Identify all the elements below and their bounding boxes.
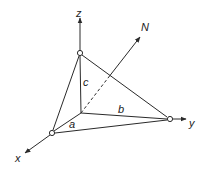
x-axis-label: x: [14, 152, 21, 164]
normal-vector: [108, 37, 140, 78]
x-axis: [25, 135, 50, 153]
z-axis-label: z: [75, 7, 82, 19]
y-axis-label: y: [188, 117, 196, 129]
tetrahedron-diagram: z N y x c b a: [0, 0, 207, 171]
intercept-c-label: c: [83, 76, 89, 88]
normal-label: N: [141, 21, 149, 33]
vertex-z-intercept: [77, 50, 82, 55]
vertex-x-intercept: [49, 130, 54, 135]
vertex-y-intercept: [167, 116, 172, 121]
intercept-b-label: b: [118, 103, 124, 115]
intercept-a-label: a: [69, 118, 75, 130]
plane-edge-top-right: [82, 55, 167, 117]
z-intercept-edge: [80, 56, 81, 113]
diagram-canvas: z N y x c b a: [0, 0, 207, 171]
